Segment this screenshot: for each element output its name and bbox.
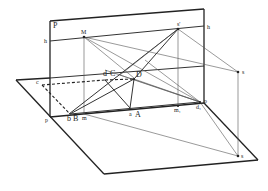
point-s-lower — [237, 155, 240, 158]
label-M: M — [81, 29, 87, 35]
point-D — [133, 78, 135, 80]
label-d1: d₁ — [196, 104, 201, 110]
label-s-lower: s — [241, 153, 244, 159]
label-h-left: h — [44, 38, 47, 44]
horizon-line — [50, 26, 204, 41]
ground-plane — [16, 66, 258, 174]
label-b: b — [67, 114, 71, 123]
label-D: D — [136, 70, 142, 79]
label-d: d — [103, 69, 107, 78]
point-s-prime — [177, 28, 180, 31]
label-c: c — [36, 79, 39, 85]
point-s-upper — [237, 71, 240, 74]
label-B: B — [73, 114, 78, 123]
label-s-upper: s — [242, 69, 245, 75]
label-h-right: h — [207, 24, 210, 30]
point-M — [83, 36, 86, 39]
label-C: C — [110, 69, 115, 78]
point-d1 — [199, 101, 201, 103]
label-m1: m₁ — [174, 107, 181, 113]
label-P: P — [53, 21, 58, 30]
label-p-right: p — [204, 98, 207, 104]
label-s-prime: s' — [177, 21, 180, 27]
label-A: A — [135, 110, 141, 119]
label-m: m — [82, 115, 87, 121]
label-p-left: p — [45, 117, 48, 123]
picture-plane — [50, 9, 204, 117]
label-a: a — [129, 111, 132, 117]
perspective-diagram: P h h M s' s s c d C D p b B m a A m₁ d₁… — [0, 0, 268, 191]
